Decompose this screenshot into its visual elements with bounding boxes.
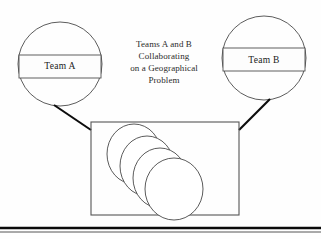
caption-line-1: Teams A and B <box>136 39 192 49</box>
diagram-canvas: Team A Team B Teams A and B Collaboratin… <box>0 0 321 239</box>
map-layer-stack <box>107 124 203 220</box>
caption-line-2: Collaborating <box>139 51 190 61</box>
team-b-label: Team B <box>248 55 279 65</box>
team-a-label: Team A <box>44 61 75 71</box>
caption-line-4: Problem <box>148 75 179 85</box>
node-team-b[interactable]: Team B <box>222 16 306 100</box>
node-team-a[interactable]: Team A <box>18 22 102 106</box>
caption-line-3: on a Geographical <box>130 63 198 73</box>
map-layer-disc-4 <box>145 158 203 220</box>
connector-team-a-to-workspace <box>54 105 91 130</box>
connector-team-b-to-workspace <box>239 99 270 130</box>
collaboration-diagram: Team A Team B Teams A and B Collaboratin… <box>0 0 321 239</box>
diagram-caption: Teams A and B Collaborating on a Geograp… <box>130 39 198 85</box>
